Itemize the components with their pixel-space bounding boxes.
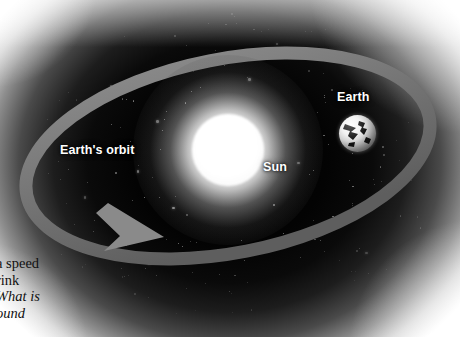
caption-text-block: a speed rink What is ound <box>0 255 100 321</box>
caption-line-2: rink <box>0 272 100 289</box>
sun-disc <box>192 114 264 186</box>
caption-line-4: ound <box>0 305 100 322</box>
label-earth: Earth <box>337 90 369 104</box>
earth-shading <box>339 115 376 152</box>
label-earths-orbit: Earth's orbit <box>60 143 134 157</box>
caption-line-1: a speed <box>0 255 100 272</box>
caption-line-3: What is <box>0 288 100 305</box>
label-sun: Sun <box>263 160 287 174</box>
orbit-diagram-figure: Earth's orbit Sun Earth a speed rink Wha… <box>0 0 460 337</box>
earth-object <box>339 115 376 152</box>
